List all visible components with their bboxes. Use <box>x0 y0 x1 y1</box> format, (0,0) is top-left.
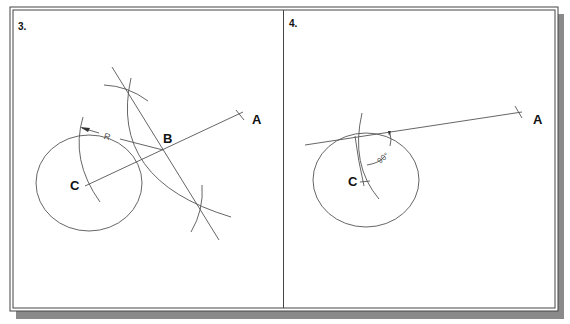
label-c-panel-3: C <box>70 178 80 193</box>
panel-3-number: 3. <box>18 21 27 32</box>
label-a-panel-3: A <box>252 112 262 127</box>
label-c-panel-4: C <box>348 174 358 189</box>
panel-4-number: 4. <box>289 18 298 29</box>
label-b-panel-3: B <box>163 131 172 146</box>
construction-figure: R 3. A B C 90° 4. A C <box>0 0 570 324</box>
label-a-panel-4: A <box>533 112 543 127</box>
